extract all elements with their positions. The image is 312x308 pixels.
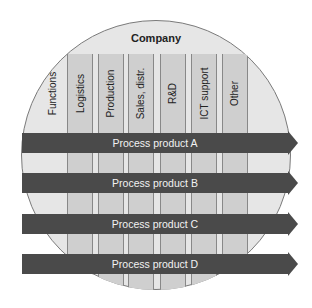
column-label-production: Production	[98, 55, 124, 131]
process-label: Process product D	[112, 258, 198, 270]
functions-label: Functions	[40, 55, 66, 131]
process-label: Process product A	[112, 137, 197, 149]
arrow-head-icon	[288, 252, 298, 276]
arrow-head-icon	[288, 212, 298, 236]
functions-label-text: Functions	[48, 71, 59, 114]
column-label-text: R&D	[168, 82, 179, 103]
column-label-other: Other	[222, 55, 248, 131]
process-bar-c: Process product C	[22, 214, 288, 234]
arrow-head-icon	[288, 171, 298, 195]
arrow-head-icon	[288, 131, 298, 155]
column-label-text: Production	[106, 69, 117, 117]
process-label: Process product B	[112, 177, 198, 189]
process-bar-b: Process product B	[22, 173, 288, 193]
column-label-text: Other	[229, 80, 240, 105]
company-process-diagram: Company Functions Logistics Production S…	[0, 0, 312, 308]
column-label-ict: ICT support	[191, 55, 217, 131]
process-bar-a: Process product A	[22, 133, 288, 153]
column-label-sales: Sales, distr.	[128, 55, 154, 131]
process-bar-d: Process product D	[22, 254, 288, 274]
company-title: Company	[0, 32, 312, 44]
column-label-text: Sales, distr.	[136, 67, 147, 119]
column-label-logistics: Logistics	[67, 55, 93, 131]
column-label-text: Logistics	[75, 74, 86, 113]
process-label: Process product C	[112, 218, 198, 230]
column-label-text: ICT support	[199, 67, 210, 119]
column-label-rnd: R&D	[160, 55, 186, 131]
